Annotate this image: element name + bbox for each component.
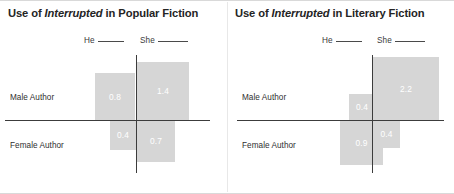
bar-value-female-he-literary: 0.9 [355,138,367,148]
bar-value-male-she-popular: 1.4 [157,86,169,96]
chart-title-suffix: in Popular Fiction [103,7,199,19]
chart-title-emphasis: Interrupted [272,7,330,19]
row-label-female-author-popular: Female Author [10,141,64,150]
legend-she-literary: She [377,36,425,45]
bar-value-female-she-popular: 0.7 [150,136,162,146]
vertical-axis-popular [136,55,137,173]
legend-she-label: She [377,36,392,45]
row-label-female-author-literary: Female Author [242,141,296,150]
bar-value-male-he-popular: 0.8 [109,92,121,102]
legend-he-literary: He [322,36,362,45]
chart-panel-literary-fiction: Use of Interrupted in Literary Fiction H… [227,0,454,194]
bar-male-she-literary: 2.2 [373,57,439,120]
bar-value-male-she-literary: 2.2 [400,84,412,94]
chart-title-literary-fiction: Use of Interrupted in Literary Fiction [235,7,450,19]
legend-she-label: She [140,36,155,45]
legend-he-popular: He [84,36,124,45]
legend-she-blank [158,41,188,42]
legend-he-blank [336,41,362,42]
row-label-male-author-literary: Male Author [242,93,286,102]
legend-she-popular: She [140,36,188,45]
legend-he-blank [98,41,124,42]
chart-panel-popular-fiction: Use of Interrupted in Popular Fiction He… [0,0,227,194]
bar-female-he-popular: 0.4 [110,120,136,150]
vertical-axis-literary [372,55,373,173]
chart-title-prefix: Use of [235,7,272,19]
bar-value-female-she-literary: 0.4 [380,129,392,139]
legend-he-label: He [322,36,333,45]
chart-title-popular-fiction: Use of Interrupted in Popular Fiction [8,7,223,19]
bar-value-female-he-popular: 0.4 [117,130,129,140]
legend-she-blank [395,41,425,42]
chart-title-suffix: in Literary Fiction [330,7,425,19]
chart-title-prefix: Use of [8,7,45,19]
bar-female-she-popular: 0.7 [137,120,175,162]
figure-canvas: Use of Interrupted in Popular Fiction He… [0,0,454,194]
horizontal-axis-literary [237,120,444,121]
bar-value-male-he-literary: 0.4 [356,102,368,112]
chart-title-emphasis: Interrupted [45,7,103,19]
row-label-male-author-popular: Male Author [10,93,54,102]
legend-he-label: He [84,36,95,45]
horizontal-axis-popular [5,120,210,121]
bar-female-she-literary: 0.4 [373,120,400,148]
bar-male-she-popular: 1.4 [137,62,189,120]
bar-male-he-popular: 0.8 [95,73,135,120]
